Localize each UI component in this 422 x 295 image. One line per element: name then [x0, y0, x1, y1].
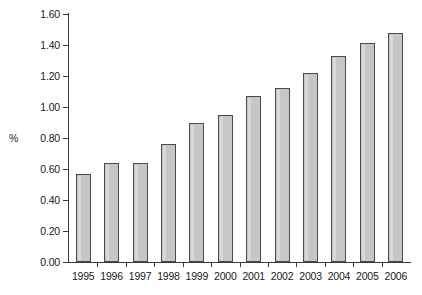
x-axis-tick: [325, 262, 326, 267]
y-axis-tick-label: 0.60: [40, 163, 60, 175]
y-axis-tick-label: 0.00: [40, 256, 60, 268]
bar-chart: % 0.000.200.400.600.801.001.201.401.60 1…: [0, 0, 422, 295]
x-axis-tick: [154, 262, 155, 267]
y-axis-tick-label: 1.40: [40, 39, 60, 51]
y-axis-tick: [63, 45, 68, 46]
x-axis-tick-label: 1997: [129, 270, 152, 282]
y-axis-tick: [63, 138, 68, 139]
y-axis-tick-label: 0.80: [40, 132, 60, 144]
x-axis-tick: [268, 262, 269, 267]
x-axis-tick: [353, 262, 354, 267]
x-axis-tick-label: 2001: [242, 270, 265, 282]
x-axis-tick-label: 2004: [328, 270, 351, 282]
x-axis-tick-label: 2005: [356, 270, 379, 282]
y-axis-tick-label: 1.00: [40, 101, 60, 113]
y-axis-title: %: [9, 132, 18, 144]
y-axis-tick: [63, 262, 68, 263]
y-axis-tick-label: 0.20: [40, 225, 60, 237]
y-axis-tick: [63, 169, 68, 170]
x-axis-tick-label: 1998: [157, 270, 180, 282]
plot-area: [69, 14, 410, 262]
x-axis-tick-label: 2000: [214, 270, 237, 282]
x-axis-tick-label: 1999: [186, 270, 209, 282]
bar-2002: [275, 88, 290, 262]
y-axis-tick-label: 1.60: [40, 8, 60, 20]
bar-1996: [104, 163, 119, 262]
bar-1997: [133, 163, 148, 262]
bar-2005: [360, 43, 375, 262]
bar-2006: [388, 33, 403, 262]
x-axis-tick: [211, 262, 212, 267]
bar-2004: [331, 56, 346, 262]
x-axis-tick-label: 1995: [72, 270, 95, 282]
y-axis-tick: [63, 14, 68, 15]
bar-2001: [246, 96, 261, 262]
x-axis-tick: [97, 262, 98, 267]
y-axis-tick-label: 0.40: [40, 194, 60, 206]
bar-2003: [303, 73, 318, 262]
y-axis-tick: [63, 200, 68, 201]
bar-1995: [76, 174, 91, 262]
x-axis-tick: [183, 262, 184, 267]
bar-1998: [161, 144, 176, 262]
bar-1999: [189, 123, 204, 263]
x-axis-tick-label: 2006: [385, 270, 408, 282]
x-axis-tick-label: 2002: [271, 270, 294, 282]
y-axis-tick: [63, 107, 68, 108]
bar-2000: [218, 115, 233, 262]
x-axis-tick: [382, 262, 383, 267]
y-axis-tick: [63, 76, 68, 77]
x-axis-tick: [126, 262, 127, 267]
y-axis-tick: [63, 231, 68, 232]
x-axis-tick: [240, 262, 241, 267]
x-axis-tick-label: 2003: [299, 270, 322, 282]
y-axis-tick-label: 1.20: [40, 70, 60, 82]
x-axis-tick: [296, 262, 297, 267]
x-axis-tick-label: 1996: [100, 270, 123, 282]
